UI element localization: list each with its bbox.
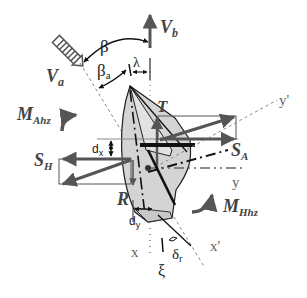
- label-xi: ξ: [158, 262, 165, 279]
- label-y-prime: y': [279, 92, 290, 108]
- label-beta: β: [100, 37, 109, 56]
- label-y: y: [232, 174, 240, 190]
- label-t: T: [157, 97, 168, 116]
- label-m-hhz: MHhz: [222, 196, 259, 218]
- force-diagram: Va Vb β βa λ MAhz T y' SA dx SH y R MHhz…: [0, 0, 307, 298]
- m-hhz-moment-arrow: [192, 195, 212, 212]
- xi-reference-line: [162, 238, 163, 252]
- resultant-arrow-left: [63, 160, 131, 184]
- label-m-ahz: MAhz: [16, 104, 51, 126]
- label-dx: dx: [92, 142, 104, 158]
- center-point: [145, 165, 151, 171]
- label-beta-a: βa: [97, 61, 111, 81]
- label-x-prime: x': [210, 238, 221, 254]
- label-s-a: SA: [231, 140, 248, 162]
- label-lambda: λ: [133, 55, 140, 70]
- label-r: R: [116, 189, 129, 209]
- label-dy: dy: [129, 214, 141, 230]
- label-delta-r: δr: [172, 246, 183, 264]
- lambda-tick-left: [129, 64, 131, 76]
- label-x: x: [131, 244, 139, 260]
- deck-bar: [140, 143, 195, 147]
- dx-marker: [109, 146, 113, 150]
- label-s-h: SH: [34, 150, 53, 172]
- m-ahz-moment-arrow: [62, 115, 76, 131]
- delta-r-marker-icon: [169, 237, 177, 241]
- label-va: Va: [46, 66, 64, 89]
- label-vb: Vb: [160, 17, 178, 40]
